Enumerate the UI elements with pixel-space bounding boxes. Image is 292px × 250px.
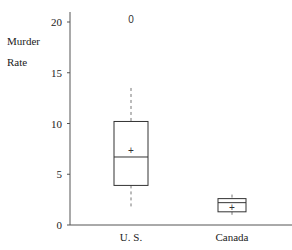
x-category-label: Canada [216,231,249,243]
x-category-label: U. S. [120,231,143,243]
box-plot: 05101520+0U. S.+Canada [0,0,292,250]
y-tick-label: 10 [51,118,63,130]
y-tick-label: 0 [57,219,63,231]
mean-marker: + [229,202,235,213]
outlier-marker: 0 [128,14,134,25]
y-axis-label-line1: Murder [7,35,40,47]
y-tick-label: 5 [57,168,63,180]
y-tick-label: 20 [51,16,63,28]
y-axis-label-line2: Rate [7,56,27,68]
mean-marker: + [128,145,134,156]
y-tick-label: 15 [51,67,63,79]
